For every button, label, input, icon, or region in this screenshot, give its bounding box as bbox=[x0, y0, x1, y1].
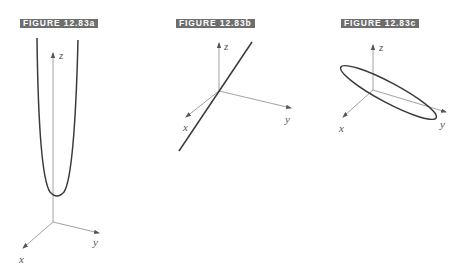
figure-a: z y x bbox=[18, 38, 99, 265]
figure-a-y-axis bbox=[53, 222, 99, 233]
figure-c-x-axis bbox=[343, 90, 373, 117]
figure-a-parabola bbox=[37, 38, 78, 196]
figure-b-z-label: z bbox=[223, 40, 229, 52]
figure-c: z y x bbox=[336, 41, 446, 134]
figure-b-y-axis bbox=[219, 91, 291, 108]
figure-b-x-label: x bbox=[182, 121, 188, 133]
figure-b-x-axis bbox=[186, 91, 219, 117]
figure-a-x-label: x bbox=[18, 253, 24, 265]
figure-c-z-label: z bbox=[378, 41, 384, 53]
figure-c-x-label: x bbox=[338, 122, 344, 134]
figures-canvas: z y x z y x z y x bbox=[0, 0, 466, 273]
figure-c-y-label: y bbox=[439, 118, 445, 130]
figure-a-z-label: z bbox=[58, 49, 64, 61]
figure-b: z y x bbox=[179, 40, 291, 151]
figure-a-x-axis bbox=[23, 222, 53, 248]
figure-b-y-label: y bbox=[284, 113, 290, 125]
figure-a-y-label: y bbox=[92, 236, 98, 248]
figure-c-ellipse bbox=[336, 58, 441, 126]
